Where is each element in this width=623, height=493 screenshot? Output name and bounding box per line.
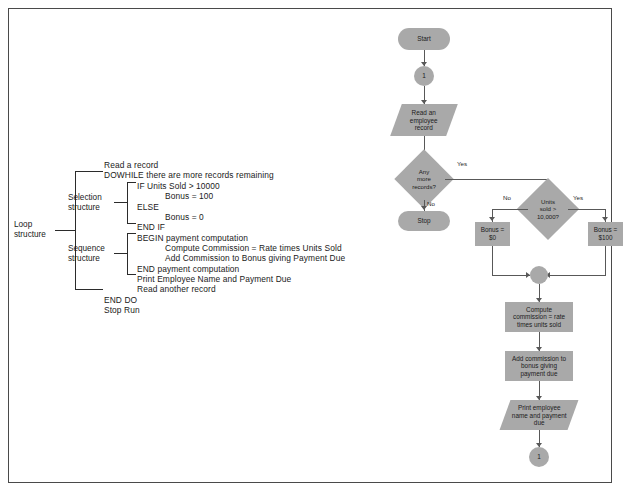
sequence-structure-label: Sequence structure [68, 244, 105, 263]
pseudocode-line: DOWHILE there are more records remaining [104, 170, 274, 180]
pseudocode-line: Stop Run [104, 305, 140, 315]
flowchart-block: Start 1 Read an employee record Any more… [340, 0, 622, 493]
edge-label-any-more-yes: Yes [457, 160, 467, 167]
selection-structure-label: Selection structure [68, 193, 102, 212]
edge-bonus0-to-merge [492, 275, 530, 276]
selection-bracket-top [127, 182, 136, 183]
pseudocode-line: Compute Commission = Rate times Units So… [165, 243, 342, 253]
edge-bonus100-down [605, 246, 606, 276]
flow-node-connector-top: 1 [414, 66, 434, 86]
flow-node-compute-commission-label: Compute commission = rate times units so… [513, 306, 565, 329]
pseudocode-line: END IF [137, 222, 165, 232]
selection-bracket-vertical [127, 182, 128, 223]
flow-node-connector-top-label: 1 [422, 72, 426, 80]
flow-node-stop-label: Stop [417, 217, 430, 225]
edge-label-any-more-no: No [427, 200, 435, 207]
loop-bracket-bottom [75, 289, 103, 290]
flow-node-bonus-zero-label: Bonus = $0 [481, 226, 505, 241]
edge-label-units-yes: Yes [573, 194, 583, 201]
flow-node-connector-bottom: 1 [529, 447, 549, 467]
sequence-bracket-top [127, 233, 136, 234]
flow-node-print-employee: Print employee name and payment due [500, 400, 579, 430]
arrow-units-yes-to-bonus100 [602, 217, 608, 221]
flow-node-bonus-zero: Bonus = $0 [475, 222, 510, 246]
flow-node-merge-point [530, 266, 548, 284]
flow-node-compute-commission: Compute commission = rate times units so… [505, 302, 573, 332]
selection-structure-leader [114, 202, 127, 203]
selection-bracket-bottom [127, 223, 136, 224]
flow-node-add-commission-label: Add commission to bonus giving payment d… [512, 355, 566, 378]
edge-units-no-horizontal [492, 209, 528, 210]
sequence-structure-leader [114, 253, 127, 254]
flow-node-read-record: Read an employee record [390, 104, 458, 136]
sequence-bracket-vertical [127, 233, 128, 274]
edge-units-yes-horizontal [568, 209, 606, 210]
flow-node-print-employee-label: Print employee name and payment due [512, 404, 567, 427]
flow-node-units-sold: Units sold > 10,000? [526, 187, 570, 231]
flow-node-start-label: Start [417, 35, 431, 43]
flow-node-read-record-label: Read an employee record [410, 109, 438, 132]
edge-anymore-yes-horizontal [445, 179, 549, 180]
arrow-units-no-to-bonus0 [489, 217, 495, 221]
pseudocode-line: Read another record [137, 284, 216, 294]
pseudocode-line: Print Employee Name and Payment Due [137, 274, 291, 284]
pseudocode-line: IF Units Sold > 10000 [137, 181, 220, 191]
flow-node-any-more-records: Any more records? [403, 158, 445, 200]
loop-structure-leader [55, 230, 75, 231]
pseudocode-line: Add Commission to Bonus giving Payment D… [165, 253, 345, 263]
loop-bracket-vertical [75, 171, 76, 289]
pseudocode-line: END payment computation [137, 264, 239, 274]
flow-node-stop: Stop [398, 211, 450, 231]
loop-structure-label: Loop structure [14, 220, 46, 239]
pseudocode-line: Read a record [104, 160, 158, 170]
pseudocode-line: Bonus = 0 [165, 212, 204, 222]
pseudocode-line: END DO [104, 295, 137, 305]
pseudocode-line: BEGIN payment computation [137, 233, 248, 243]
edge-bonus0-down [492, 246, 493, 276]
flow-node-units-sold-label: Units sold > 10,000? [526, 187, 570, 231]
flow-node-bonus-hundred-label: Bonus = $100 [594, 226, 618, 241]
sequence-bracket-bottom [127, 274, 136, 275]
flow-node-start: Start [398, 28, 450, 50]
edge-label-units-no: No [503, 194, 511, 201]
flow-node-add-commission: Add commission to bonus giving payment d… [505, 351, 573, 381]
loop-bracket-top [75, 171, 103, 172]
pseudocode-line: ELSE [137, 202, 159, 212]
edge-bonus100-to-merge [548, 275, 606, 276]
flow-node-connector-bottom-label: 1 [537, 453, 541, 461]
pseudocode-line: Bonus = 100 [165, 191, 213, 201]
arrow-anymore-to-stop [421, 206, 427, 210]
flow-node-any-more-records-label: Any more records? [403, 158, 445, 200]
flow-node-bonus-hundred: Bonus = $100 [588, 222, 623, 246]
